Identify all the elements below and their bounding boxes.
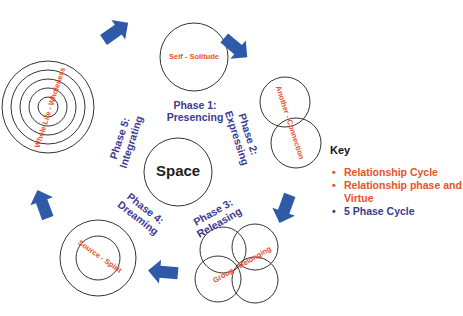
arrow-source-to-wholelife-icon bbox=[26, 186, 59, 222]
arrow-wholelife-to-self-icon bbox=[97, 13, 135, 50]
legend-title: Key bbox=[330, 144, 462, 156]
relationship-cycle-diagram: Self - Solitude Another - Connection Gro… bbox=[0, 0, 463, 316]
legend: Key • Relationship Cycle • Relationship … bbox=[330, 144, 462, 218]
legend-item-label: 5 Phase Cycle bbox=[344, 205, 415, 217]
legend-item-label-cont: Virtue bbox=[344, 192, 374, 204]
arrow-group-to-source-icon bbox=[147, 259, 179, 286]
arrow-another-to-group-icon bbox=[268, 191, 301, 227]
legend-item-label: Relationship Cycle bbox=[344, 166, 438, 178]
legend-item-5-phase-cycle: • 5 Phase Cycle bbox=[330, 205, 462, 218]
legend-item-label: Relationship phase and bbox=[344, 179, 462, 191]
legend-item-relationship-phase: • Relationship phase and Virtue bbox=[330, 179, 462, 205]
legend-list: • Relationship Cycle • Relationship phas… bbox=[330, 166, 462, 218]
bullet-icon: • bbox=[332, 205, 336, 218]
bullet-icon: • bbox=[332, 179, 336, 192]
space-label: Space bbox=[156, 162, 200, 179]
legend-item-relationship-cycle: • Relationship Cycle bbox=[330, 166, 462, 179]
bullet-icon: • bbox=[332, 166, 336, 179]
relationship-label-self: Self - Solitude bbox=[164, 52, 224, 61]
